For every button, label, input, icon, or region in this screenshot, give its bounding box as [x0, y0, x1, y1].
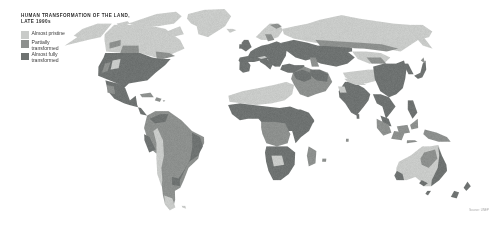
legend-swatch-almost-fully-transformed — [21, 53, 29, 61]
legend-item-almost-fully-transformed: Almost fully transformed — [21, 52, 93, 63]
legend-item-almost-pristine: Almost pristine — [21, 31, 93, 39]
legend-item-partially-transformed: Partially transformed — [21, 40, 93, 51]
map-title-line-2: LATE 1990s — [21, 19, 141, 25]
legend-label-almost-fully-transformed: Almost fully transformed — [32, 52, 59, 63]
map-legend: Almost pristine Partially transformed Al… — [21, 31, 93, 64]
legend-swatch-partially-transformed — [21, 40, 29, 48]
legend-label-partially-transformed: Partially transformed — [32, 40, 59, 51]
map-title: HUMAN TRANSFORMATION OF THE LAND, LATE 1… — [21, 13, 141, 26]
legend-label-line-1: Almost pristine — [32, 31, 65, 37]
legend-swatch-almost-pristine — [21, 31, 29, 39]
legend-label-almost-pristine: Almost pristine — [32, 31, 65, 37]
legend-label-line-2: transformed — [32, 58, 59, 64]
world-map-figure: HUMAN TRANSFORMATION OF THE LAND, LATE 1… — [0, 0, 500, 234]
source-credit: Source: UNEP — [469, 209, 489, 212]
legend-label-line-2: transformed — [32, 46, 59, 52]
